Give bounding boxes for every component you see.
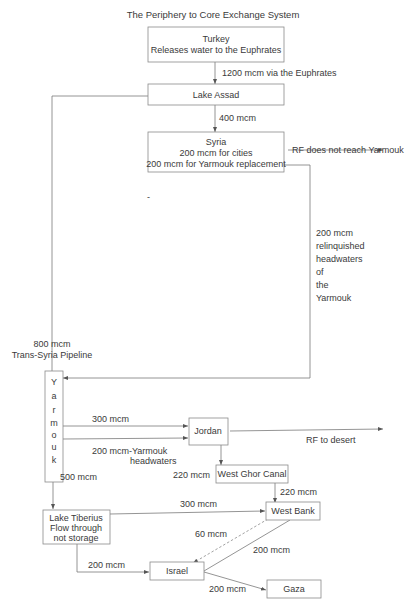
label-tiberius-to-westbank: 300 mcm [180, 499, 217, 509]
label-wgc-to-westbank: 220 mcm [280, 487, 317, 497]
svg-text:200 mcm for cities: 200 mcm for cities [179, 148, 253, 158]
svg-text:Flow through: Flow through [50, 523, 102, 533]
label-jordan-rf: RF to desert [306, 435, 356, 445]
exchange-system-diagram: The Periphery to Core Exchange System Tu… [0, 0, 415, 614]
svg-text:relinquished: relinquished [316, 241, 365, 251]
label-jordan-to-wgc: 220 mcm [173, 470, 210, 480]
label-yarmouk-to-jordan-200: 200 mcm-Yarmouk [92, 446, 168, 456]
svg-text:Jordan: Jordan [194, 426, 222, 436]
node-israel: Israel [150, 562, 204, 580]
label-syria-to-yarmouk: 200 mcm relinquished headwaters of the Y… [316, 228, 365, 303]
svg-text:Lake Assad: Lake Assad [193, 90, 240, 100]
svg-text:200 mcm for Yarmouk replacemen: 200 mcm for Yarmouk replacement [146, 159, 286, 169]
label-syria-rf: RF does not reach Yarmouk [292, 145, 404, 155]
svg-text:a: a [51, 391, 56, 401]
svg-text:m: m [50, 418, 58, 428]
svg-text:headwaters: headwaters [316, 254, 363, 264]
node-gaza: Gaza [267, 580, 321, 598]
svg-text:Gaza: Gaza [283, 584, 305, 594]
node-turkey: Turkey Releases water to the Euphrates [148, 27, 284, 62]
svg-text:Syria: Syria [206, 137, 227, 147]
node-yarmouk: Y a r m o u k [45, 371, 63, 482]
label-westbank-to-israel: 200 mcm [253, 545, 290, 555]
stray-mark: - [147, 192, 150, 202]
svg-text:Lake Tiberius: Lake Tiberius [49, 513, 103, 523]
svg-text:o: o [51, 430, 56, 440]
svg-text:Yarmouk: Yarmouk [316, 293, 352, 303]
node-west-bank: West Bank [266, 502, 320, 520]
label-yarmouk-headwaters: headwaters [130, 456, 177, 466]
diagram-title: The Periphery to Core Exchange System [127, 9, 300, 20]
svg-text:of: of [316, 267, 324, 277]
label-assad-to-syria: 400 mcm [219, 113, 256, 123]
label-israel-to-gaza: 200 mcm [209, 584, 246, 594]
svg-text:Y: Y [51, 377, 57, 387]
svg-text:not storage: not storage [53, 533, 98, 543]
label-westbank-to-israel-dashed: 60 mcm [195, 529, 227, 539]
svg-text:Releases water to the Euphrate: Releases water to the Euphrates [151, 45, 282, 55]
label-pipeline-amount: 800 mcm [33, 339, 70, 349]
node-lake-tiberius: Lake Tiberius Flow through not storage [43, 510, 110, 544]
svg-text:Israel: Israel [166, 566, 188, 576]
svg-text:the: the [316, 280, 329, 290]
svg-text:k: k [52, 455, 57, 465]
label-turkey-to-assad: 1200 mcm via the Euphrates [222, 68, 337, 78]
svg-text:r: r [53, 405, 56, 415]
label-yarmouk-to-jordan-300: 300 mcm [92, 414, 129, 424]
node-west-ghor-canal: West Ghor Canal [216, 465, 288, 483]
flow-syria-to-yarmouk [63, 165, 310, 378]
node-lake-assad: Lake Assad [148, 84, 284, 105]
node-jordan: Jordan [189, 418, 228, 445]
label-tiberius-to-israel: 200 mcm [88, 560, 125, 570]
flow-westbank-to-israel-dashed [193, 519, 268, 563]
node-syria: Syria 200 mcm for cities 200 mcm for Yar… [146, 132, 286, 172]
flow-tiberius-to-westbank [110, 511, 265, 514]
svg-text:200 mcm: 200 mcm [316, 228, 353, 238]
label-pipeline-name: Trans-Syria Pipeline [12, 350, 93, 360]
flow-jordan-rf [230, 429, 383, 431]
svg-text:West Ghor Canal: West Ghor Canal [218, 469, 287, 479]
svg-text:West Bank: West Bank [271, 506, 315, 516]
svg-text:Turkey: Turkey [202, 34, 230, 44]
svg-text:u: u [51, 442, 56, 452]
flow-yarmouk-to-jordan-200 [63, 438, 188, 439]
label-yarmouk-to-tiberius: 500 mcm [60, 472, 97, 482]
